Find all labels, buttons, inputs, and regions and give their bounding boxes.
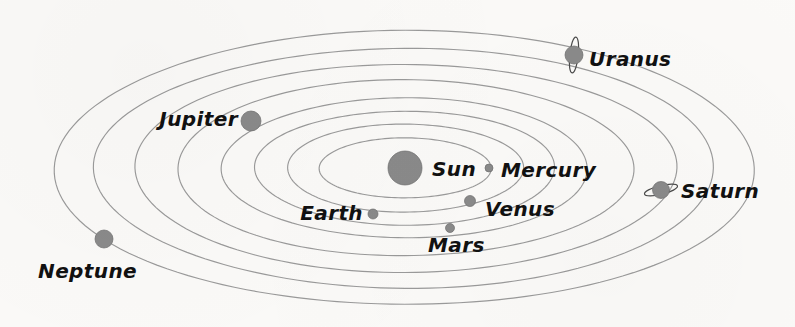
planet-neptune[interactable]	[95, 230, 113, 248]
planet-venus[interactable]	[465, 196, 476, 207]
label-uranus: Uranus	[589, 47, 671, 71]
label-earth: Earth	[300, 201, 363, 225]
solar-system-canvas: SunMercuryVenusEarthMarsJupiterSaturnUra…	[0, 0, 795, 327]
sun-body-icon[interactable]	[388, 151, 422, 185]
mercury-body-icon[interactable]	[485, 164, 493, 172]
jupiter-body-icon[interactable]	[241, 111, 261, 131]
planet-jupiter[interactable]	[241, 111, 261, 131]
planet-mars[interactable]	[446, 224, 455, 233]
neptune-body-icon[interactable]	[95, 230, 113, 248]
planet-sun[interactable]	[388, 151, 422, 185]
venus-body-icon[interactable]	[465, 196, 476, 207]
planet-mercury[interactable]	[485, 164, 493, 172]
saturn-body-icon[interactable]	[653, 182, 670, 199]
uranus-body-icon[interactable]	[565, 46, 583, 64]
label-saturn: Saturn	[681, 179, 759, 203]
label-neptune: Neptune	[38, 259, 137, 283]
planet-earth[interactable]	[368, 209, 378, 219]
label-sun: Sun	[432, 157, 476, 181]
planet-saturn[interactable]	[643, 182, 678, 199]
label-mercury: Mercury	[501, 158, 597, 182]
earth-body-icon[interactable]	[368, 209, 378, 219]
label-mars: Mars	[428, 233, 485, 257]
mars-body-icon[interactable]	[446, 224, 455, 233]
solar-system-diagram: SunMercuryVenusEarthMarsJupiterSaturnUra…	[0, 0, 795, 327]
label-venus: Venus	[485, 197, 555, 221]
label-jupiter: Jupiter	[155, 107, 238, 131]
